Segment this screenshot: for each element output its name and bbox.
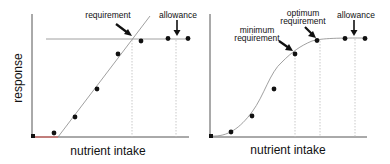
left-requirement-arrow xyxy=(116,24,132,36)
right-minimum-requirement-arrow xyxy=(279,41,293,51)
nutrient-response-diagram: requirement allowance response nutrient … xyxy=(0,0,390,164)
right-allowance-arrow xyxy=(351,20,358,36)
left-regression-line xyxy=(58,16,150,137)
right-allowance-label: allowance xyxy=(337,10,375,20)
right-panel: minimum requirement optimum requirement … xyxy=(209,8,375,157)
right-optimum-requirement-arrow xyxy=(305,27,316,38)
right-minimum-label-line2: requirement xyxy=(234,33,280,43)
left-requirement-label: requirement xyxy=(85,10,131,20)
left-data-points xyxy=(31,36,190,138)
left-y-axis-label: response xyxy=(11,53,25,103)
left-panel: requirement allowance response nutrient … xyxy=(11,10,197,158)
left-allowance-arrow xyxy=(174,20,181,36)
left-x-axis-label: nutrient intake xyxy=(70,144,146,158)
right-optimum-label-line2: requirement xyxy=(280,16,326,26)
right-x-axis-label: nutrient intake xyxy=(250,143,326,157)
right-data-points xyxy=(209,36,367,138)
left-allowance-label: allowance xyxy=(159,10,197,20)
right-sigmoid-curve xyxy=(211,38,367,136)
